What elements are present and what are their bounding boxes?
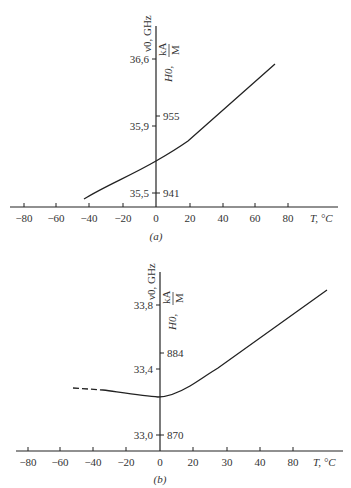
chart-b-xlabel: T, °C <box>313 456 336 468</box>
chart-a-xtick: −80 <box>15 212 33 224</box>
chart-a-ytick-right: 955 <box>163 110 180 122</box>
svg-text:H0,: H0, <box>166 314 178 331</box>
chart-b-ytick-right: 870 <box>167 429 184 441</box>
chart-b-ylabel-left: ν0, GHz <box>145 263 157 300</box>
chart-a-xtick: 0 <box>153 212 159 224</box>
svg-text:H0,: H0, <box>162 66 174 83</box>
chart-a-xlabel: T, °C <box>310 212 333 224</box>
svg-text:M: M <box>173 293 185 303</box>
chart-a-ytick-left: 35,5 <box>130 187 150 199</box>
chart-a-ylabel-left: ν0, GHz <box>141 15 153 52</box>
chart-a-ylabel-right: H0, kA M <box>156 43 181 84</box>
svg-text:M: M <box>169 45 181 55</box>
chart-a-xtick: 80 <box>283 212 295 224</box>
chart-a-curve <box>84 64 275 199</box>
chart-b-xtick: −20 <box>117 456 135 468</box>
chart-b-xtick: 40 <box>255 456 267 468</box>
chart-a-xtick: −40 <box>80 212 98 224</box>
chart-b-xtick: −60 <box>51 456 69 468</box>
chart-b-xtick: 30 <box>222 456 234 468</box>
chart-a-ytick-left: 36,6 <box>130 53 150 65</box>
chart-b-xtick: 0 <box>157 456 163 468</box>
chart-b-xtick: 20 <box>188 456 200 468</box>
chart-b-ytick-left: 33,0 <box>134 429 154 441</box>
chart-a-ytick-right: 941 <box>163 187 180 199</box>
figure: −80 −60 −40 −20 0 20 40 60 80 T, °C 36,6… <box>0 0 351 488</box>
chart-a-xtick: 60 <box>250 212 262 224</box>
chart-a-xtick: 20 <box>185 212 197 224</box>
chart-b-ylabel-right: H0, kA M <box>160 291 185 332</box>
chart-a-y-ticks-right <box>156 116 160 193</box>
chart-b-ytick-left: 33,4 <box>134 363 154 375</box>
chart-a-xtick: 40 <box>218 212 230 224</box>
chart-b-curve-dashed <box>73 388 103 390</box>
chart-b-xtick: −80 <box>19 456 37 468</box>
chart-a-xtick: −20 <box>114 212 132 224</box>
chart-a-labels: −80 −60 −40 −20 0 20 40 60 80 T, °C 36,6… <box>15 15 333 243</box>
chart-b-caption: (b) <box>154 473 167 486</box>
chart-a-ytick-left: 35,9 <box>130 120 150 132</box>
chart-b-xtick: 80 <box>288 456 300 468</box>
chart-b-y-ticks-right <box>160 353 164 435</box>
chart-b-xtick: −40 <box>84 456 102 468</box>
chart-b-labels: −80 −60 −40 −20 0 20 30 40 80 T, °C 33,8… <box>19 263 336 486</box>
svg-text:kA: kA <box>160 291 172 305</box>
chart-a-xtick: −60 <box>47 212 65 224</box>
chart-a-caption: (a) <box>150 230 163 243</box>
chart-b-ytick-right: 884 <box>167 347 184 359</box>
svg-text:kA: kA <box>156 43 168 57</box>
